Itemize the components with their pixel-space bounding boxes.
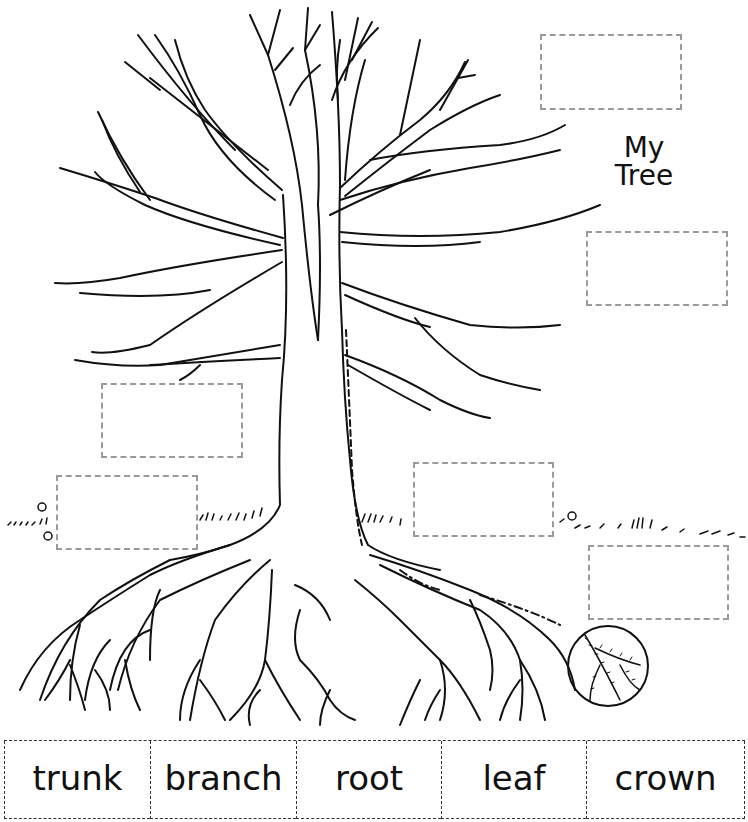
label-box-center-ground[interactable] xyxy=(413,462,554,537)
title-line-1: My xyxy=(598,134,690,162)
word-card-crown[interactable]: crown xyxy=(586,741,745,819)
word-label: leaf xyxy=(482,758,545,798)
label-box-right-roots[interactable] xyxy=(588,545,729,620)
worksheet-title: My Tree xyxy=(598,134,690,190)
label-box-left-middle[interactable] xyxy=(101,383,243,458)
word-card-branch[interactable]: branch xyxy=(150,741,296,819)
word-card-root[interactable]: root xyxy=(296,741,441,819)
word-bank: trunk branch root leaf crown xyxy=(4,740,745,822)
title-line-2: Tree xyxy=(598,162,690,190)
word-card-trunk[interactable]: trunk xyxy=(4,741,150,819)
label-box-top-right[interactable] xyxy=(540,34,682,110)
tree-illustration xyxy=(0,0,748,735)
word-label: crown xyxy=(614,758,716,798)
branches-drawing xyxy=(55,8,600,418)
word-card-leaf[interactable]: leaf xyxy=(441,741,586,819)
roots-drawing xyxy=(20,545,575,725)
word-label: trunk xyxy=(32,758,122,798)
word-label: root xyxy=(335,758,403,798)
word-label: branch xyxy=(164,758,282,798)
label-box-left-ground[interactable] xyxy=(56,475,198,550)
root-hair-magnifier xyxy=(568,626,648,706)
label-box-right-middle[interactable] xyxy=(586,231,728,306)
